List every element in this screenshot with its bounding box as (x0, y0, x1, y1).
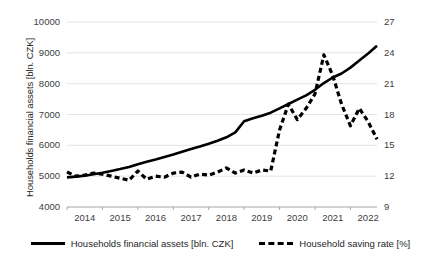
series-line-1 (67, 55, 377, 180)
series-line-0 (67, 46, 377, 178)
chart-container: Households financial assets [bln. CZK] H… (0, 0, 441, 268)
chart-legend: Households financial assets [bln. CZK]Ho… (0, 238, 441, 249)
legend-label: Households financial assets [bln. CZK] (71, 238, 234, 249)
plot-area (0, 0, 441, 268)
legend-dashed-line-icon (259, 242, 293, 245)
legend-label: Household saving rate [%] (299, 238, 410, 249)
legend-solid-line-icon (31, 242, 65, 245)
legend-item[interactable]: Household saving rate [%] (259, 238, 410, 249)
legend-item[interactable]: Households financial assets [bln. CZK] (31, 238, 234, 249)
